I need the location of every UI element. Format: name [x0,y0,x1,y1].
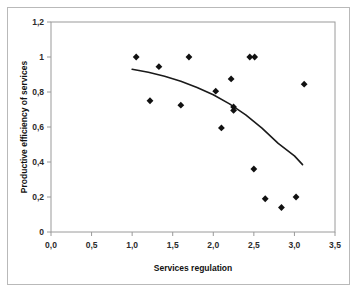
x-axis-ticks: 0,00,51,01,52,02,53,03,5 [45,232,341,250]
y-tick-label: 1 [39,52,44,62]
x-tick-label: 3,5 [329,240,341,250]
y-axis-ticks: 00,20,40,60,811,2 [32,17,51,237]
plot-area-frame [51,22,335,232]
y-tick-label: 0,4 [32,157,44,167]
y-tick-label: 0,8 [32,87,44,97]
x-tick-label: 1,0 [126,240,138,250]
x-tick-label: 3,0 [289,240,301,250]
y-tick-label: 0,2 [32,192,44,202]
x-tick-label: 2,5 [248,240,260,250]
figure-container: 00,20,40,60,811,2 0,00,51,01,52,02,53,03… [0,0,358,293]
x-tick-label: 2,0 [207,240,219,250]
scatter-plot: 00,20,40,60,811,2 0,00,51,01,52,02,53,03… [0,0,358,293]
y-tick-label: 0,6 [32,122,44,132]
x-axis-title: Services regulation [154,263,232,273]
y-axis-title: Productive efficiency of services [19,61,29,194]
y-tick-label: 1,2 [32,17,44,27]
x-tick-label: 0,5 [86,240,98,250]
x-tick-label: 0,0 [45,240,57,250]
y-tick-label: 0 [39,227,44,237]
plot-area-rect [51,22,335,232]
x-tick-label: 1,5 [167,240,179,250]
